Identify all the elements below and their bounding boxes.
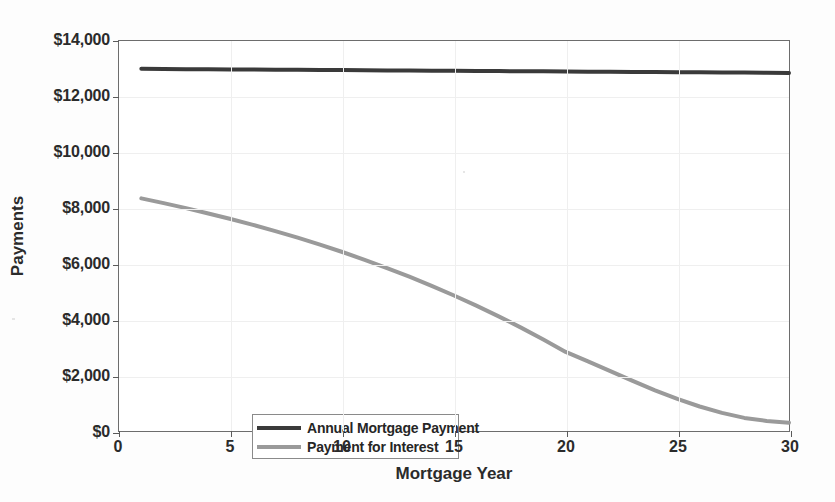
x-axis-tick-label: 10	[333, 438, 351, 456]
y-axis-tick-label: $8,000	[62, 199, 110, 217]
y-axis-tick-label: $6,000	[62, 255, 110, 273]
scan-speckle	[463, 171, 465, 173]
scan-speckle	[12, 318, 15, 320]
gridline-horizontal	[119, 209, 789, 210]
y-axis-tick-label: $0	[93, 423, 110, 441]
y-axis-tick	[113, 377, 119, 378]
x-axis-tick	[231, 431, 232, 437]
chart-figure: Payments $0$2,000$4,000$6,000$8,000$10,0…	[0, 0, 835, 502]
x-axis-tick-label: 20	[557, 438, 575, 456]
y-axis-tick	[113, 97, 119, 98]
gridline-vertical	[679, 41, 680, 431]
x-axis-tick	[455, 431, 456, 437]
gridline-horizontal	[119, 97, 789, 98]
y-axis-tick	[113, 321, 119, 322]
gridline-horizontal	[119, 377, 789, 378]
gridline-vertical	[567, 41, 568, 431]
y-axis-tick	[113, 209, 119, 210]
legend-swatch-icon	[257, 426, 301, 430]
y-axis-tick-label: $2,000	[62, 367, 110, 385]
y-axis-tick-label: $10,000	[54, 143, 110, 161]
gridline-horizontal	[119, 265, 789, 266]
gridline-vertical	[455, 41, 456, 431]
gridline-horizontal	[119, 153, 789, 154]
series-canvas	[119, 41, 789, 431]
y-axis-tick	[113, 153, 119, 154]
y-axis-tick-label: $4,000	[62, 311, 110, 329]
y-axis-tick-label: $14,000	[54, 31, 110, 49]
y-axis-tick-labels: $0$2,000$4,000$6,000$8,000$10,000$12,000…	[0, 40, 110, 432]
gridline-horizontal	[119, 321, 789, 322]
legend-label: Annual Mortgage Payment	[307, 420, 479, 436]
x-axis-tick	[567, 431, 568, 437]
x-axis-tick	[343, 431, 344, 437]
y-axis-tick	[113, 41, 119, 42]
gridline-vertical	[343, 41, 344, 431]
gridline-vertical	[231, 41, 232, 431]
x-axis-tick-label: 0	[114, 438, 123, 456]
x-axis-tick	[679, 431, 680, 437]
series-line	[141, 69, 789, 73]
y-axis-tick-label: $12,000	[54, 87, 110, 105]
x-axis-tick-label: 30	[781, 438, 799, 456]
x-axis-tick-labels: 051015202530	[118, 438, 790, 462]
series-line	[141, 198, 789, 422]
x-axis-tick-label: 15	[445, 438, 463, 456]
plot-area: Annual Mortgage PaymentPayment for Inter…	[118, 40, 790, 432]
y-axis-tick	[113, 265, 119, 266]
x-axis-title: Mortgage Year	[118, 464, 790, 484]
x-axis-tick	[791, 431, 792, 437]
x-axis-tick-label: 25	[669, 438, 687, 456]
x-axis-tick	[119, 431, 120, 437]
legend-item[interactable]: Annual Mortgage Payment	[257, 418, 454, 437]
x-axis-tick-label: 5	[226, 438, 235, 456]
